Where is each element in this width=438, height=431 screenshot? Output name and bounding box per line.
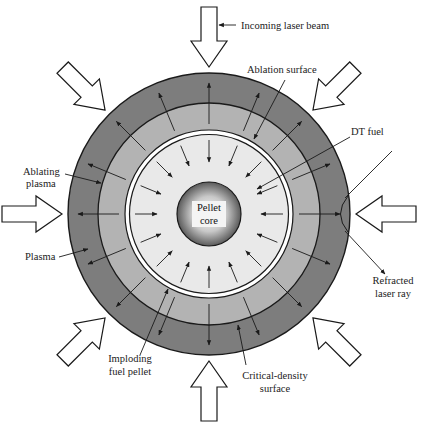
- label-imploding-1: Imploding: [108, 353, 152, 364]
- pellet-core-label-line2: core: [200, 215, 218, 226]
- label-refracted-1: Refracted: [373, 275, 415, 286]
- label-ablation-surface: Ablation surface: [247, 64, 317, 75]
- label-imploding-2: fuel pellet: [109, 366, 151, 377]
- pellet-core-label-line1: Pellet: [197, 202, 221, 213]
- label-incoming-laser-beam: Incoming laser beam: [241, 20, 329, 31]
- laser-beam-arrow: [300, 305, 368, 373]
- label-ablating-plasma-1: Ablating: [23, 166, 60, 177]
- laser-beam-arrow: [50, 55, 118, 123]
- laser-beam-arrow: [191, 361, 227, 421]
- laser-beam-arrow: [2, 196, 62, 232]
- label-ablating-plasma-2: plasma: [26, 178, 56, 189]
- label-refracted-2: laser ray: [375, 288, 412, 299]
- laser-beam-arrow: [191, 7, 227, 67]
- label-critical-density-1: Critical-density: [242, 370, 308, 381]
- laser-beam-arrow: [356, 196, 416, 232]
- refracted-ray-in: [345, 151, 392, 198]
- refracted-ray-out: [345, 231, 385, 274]
- icf-diagram: Pellet core Incoming laser beam Ablation…: [0, 0, 438, 431]
- label-plasma: Plasma: [25, 251, 56, 262]
- label-critical-density-2: surface: [260, 383, 291, 394]
- label-dt-fuel: DT fuel: [351, 126, 384, 137]
